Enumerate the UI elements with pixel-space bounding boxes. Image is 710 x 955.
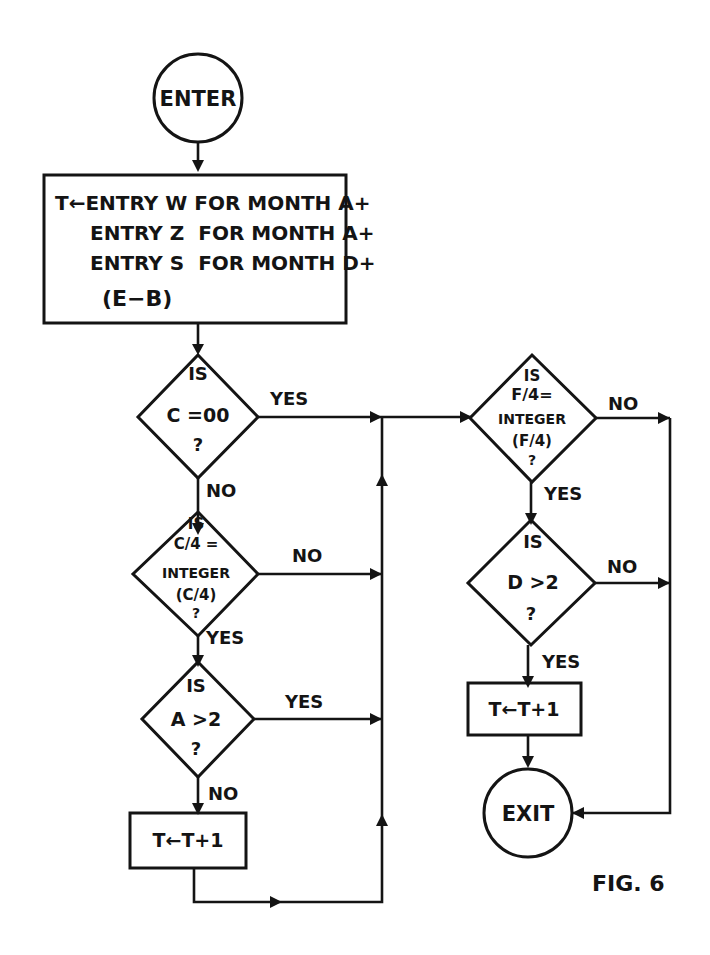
decision-text: ? — [191, 738, 201, 759]
edge-label-no: NO — [608, 393, 638, 414]
decision-text: ? — [526, 603, 536, 624]
arrow-right-icon — [658, 577, 670, 589]
decision-f4-integer: IS F/4= INTEGER (F/4) ? — [470, 355, 596, 482]
decision-d-greater-2: IS D >2 ? — [468, 520, 595, 645]
decision-text: (F/4) — [512, 432, 552, 450]
increment-label: T←T+1 — [489, 698, 560, 720]
decision-text: ? — [193, 434, 203, 455]
figure-label: FIG. 6 — [592, 871, 665, 896]
edge-label-no: NO — [206, 480, 236, 501]
decision-text: C =00 — [167, 404, 230, 426]
arrow-down-icon — [522, 756, 534, 768]
edge-label-yes: YES — [541, 651, 580, 672]
compute-line-1: T←ENTRY W FOR MONTH A+ — [55, 191, 370, 215]
enter-label: ENTER — [160, 87, 237, 111]
compute-line-2: ENTRY Z FOR MONTH A+ — [90, 221, 374, 245]
edge-label-yes: YES — [284, 691, 323, 712]
arrow-right-icon — [370, 713, 382, 725]
increment-box-right: T←T+1 — [468, 683, 581, 735]
decision-text: IS — [188, 515, 204, 533]
decision-text: D >2 — [507, 571, 559, 593]
decision-text: F/4= — [511, 385, 552, 404]
decision-text: C/4 = — [174, 535, 219, 553]
decision-text: INTEGER — [498, 411, 566, 427]
decision-text: (C/4) — [176, 586, 217, 604]
enter-node: ENTER — [154, 54, 242, 142]
arrow-left-icon — [572, 807, 584, 819]
increment-label: T←T+1 — [153, 829, 224, 851]
decision-a-greater-2: IS A >2 ? — [142, 662, 254, 777]
decision-text: A >2 — [171, 708, 221, 730]
exit-label: EXIT — [502, 802, 555, 826]
edge-label-yes: YES — [269, 388, 308, 409]
arrow-right-icon — [370, 411, 382, 423]
arrow-down-icon — [192, 160, 204, 172]
decision-text: ? — [528, 452, 536, 468]
decision-text: IS — [188, 363, 208, 384]
edge-label-yes: YES — [543, 483, 582, 504]
edge-label-no: NO — [292, 545, 322, 566]
flowchart-canvas: ENTER T←ENTRY W FOR MONTH A+ ENTRY Z FOR… — [0, 0, 710, 955]
exit-node: EXIT — [484, 769, 572, 857]
decision-text: INTEGER — [162, 565, 230, 581]
decision-c4-integer: IS C/4 = INTEGER (C/4) ? — [133, 512, 258, 636]
arrow-up-icon — [376, 814, 388, 826]
increment-box-left: T←T+1 — [130, 813, 246, 868]
edge-label-no: NO — [208, 783, 238, 804]
decision-text: ? — [192, 605, 200, 621]
edge-label-no: NO — [607, 556, 637, 577]
edge-label-yes: YES — [205, 627, 244, 648]
arrow-up-icon — [376, 474, 388, 486]
decision-text: IS — [523, 531, 543, 552]
arrow-right-icon — [658, 412, 670, 424]
arrow-right-icon — [370, 568, 382, 580]
arrow-right-icon — [270, 896, 282, 908]
compute-line-4: (E−B) — [102, 286, 172, 311]
decision-text: IS — [186, 675, 206, 696]
decision-c-equals-00: IS C =00 ? — [138, 355, 258, 478]
decision-text: IS — [524, 367, 540, 385]
compute-total-box: T←ENTRY W FOR MONTH A+ ENTRY Z FOR MONTH… — [44, 175, 376, 323]
compute-line-3: ENTRY S FOR MONTH D+ — [90, 251, 376, 275]
